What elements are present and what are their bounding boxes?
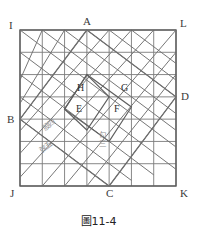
vertex-label-b: B (7, 114, 14, 125)
inner-label-e: E (76, 104, 82, 114)
annotation-gou-san: 勾三 (98, 131, 106, 146)
diagonal-lines-set-a (20, 30, 176, 186)
corner-label-i: I (9, 20, 13, 31)
vertex-label-a: A (83, 16, 91, 27)
figure-caption: 圖11-4 (0, 212, 197, 228)
inner-label-f: F (114, 104, 120, 114)
corner-label-l: L (180, 18, 187, 29)
inscribed-square-abcd (20, 30, 176, 186)
outer-square-border (20, 30, 176, 186)
grid-lines (20, 30, 176, 186)
vertex-label-c: C (106, 188, 113, 199)
vertex-label-d: D (181, 91, 189, 102)
inner-label-h: H (77, 83, 84, 93)
corner-label-j: J (10, 188, 14, 199)
corner-label-k: K (180, 188, 188, 199)
diagonal-lines-set-b (20, 30, 176, 186)
figure-container: I L K J A D C B E F G H 股四 弦五 勾三 圖11-4 (0, 0, 197, 237)
inner-label-g: G (121, 83, 128, 93)
figure-drawing (0, 0, 197, 237)
